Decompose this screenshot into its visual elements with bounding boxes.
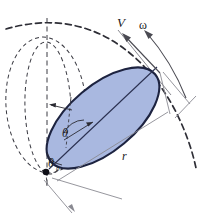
- right-dimension-line: [163, 72, 196, 118]
- theta-zero-subscript: 0: [56, 165, 60, 173]
- figure-container: V ω θ θ 0 r: [0, 0, 202, 215]
- theta-label: θ: [62, 126, 68, 140]
- angular-velocity-label: ω: [139, 18, 147, 32]
- bottom-dimension-arrowhead: [68, 204, 75, 212]
- rolling-ellipse-diagram: V ω θ θ 0 r: [0, 0, 202, 215]
- bottom-dimension-line: [44, 178, 122, 213]
- upper-left-indicator-arrowhead: [49, 103, 56, 108]
- velocity-label: V: [117, 15, 127, 30]
- theta-zero-label: θ: [48, 156, 54, 170]
- radius-label: r: [122, 149, 127, 163]
